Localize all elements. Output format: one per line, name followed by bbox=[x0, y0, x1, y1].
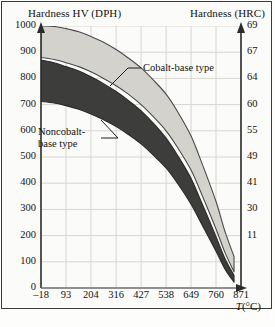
left-axis-tick-label: 500 bbox=[2, 150, 36, 161]
left-axis-tick-label: 400 bbox=[2, 176, 36, 187]
hardness-vs-temperature-figure: Hardness HV (DPH) Hardness (HRC) T(°C) 0… bbox=[0, 0, 275, 327]
left-axis-tick-label: 900 bbox=[2, 45, 36, 56]
left-axis-tick-label: 200 bbox=[2, 229, 36, 240]
left-axis-tick-label: 600 bbox=[2, 124, 36, 135]
left-axis-tick-label: 300 bbox=[2, 202, 36, 213]
x-axis-tick-label: 871 bbox=[221, 289, 261, 300]
right-axis-tick-label: 11 bbox=[247, 229, 271, 240]
left-axis-tick-label: 100 bbox=[2, 255, 36, 266]
right-axis-tick-label: 69 bbox=[247, 19, 271, 30]
left-axis-title: Hardness HV (DPH) bbox=[28, 7, 121, 19]
left-axis-tick-label: 1000 bbox=[2, 19, 36, 30]
series-label-noncobalt-line2: base type bbox=[38, 138, 85, 150]
right-axis-tick-label: 60 bbox=[247, 98, 271, 109]
series-label-noncobalt-line1: Noncobalt- bbox=[38, 126, 85, 138]
x-axis-title: T(°C) bbox=[236, 300, 261, 312]
series-label-cobalt: Cobalt-base type bbox=[143, 62, 214, 74]
right-axis-tick-label: 41 bbox=[247, 176, 271, 187]
right-axis-tick-label: 64 bbox=[247, 71, 271, 82]
x-axis-title-unit: (°C) bbox=[242, 300, 261, 312]
right-axis-tick-label: 67 bbox=[247, 45, 271, 56]
left-axis-tick-label: 700 bbox=[2, 98, 36, 109]
left-axis-tick-label: 800 bbox=[2, 71, 36, 82]
right-axis-title: Hardness (HRC) bbox=[190, 7, 265, 19]
right-axis-tick-label: 30 bbox=[247, 202, 271, 213]
series-label-noncobalt: Noncobalt- base type bbox=[38, 126, 85, 150]
right-axis-tick-label: 49 bbox=[247, 150, 271, 161]
right-axis-tick-label: 55 bbox=[247, 124, 271, 135]
